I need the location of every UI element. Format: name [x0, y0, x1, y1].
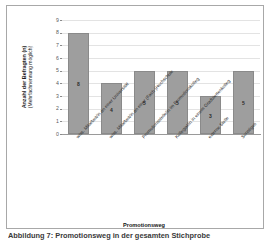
- y-tick-mark: [60, 83, 62, 84]
- y-tick-label: 8: [45, 30, 59, 35]
- y-tick-label: 1: [45, 119, 59, 124]
- y-axis-title: Anzahl der Befragten (n) (Mehrfachnennun…: [17, 20, 37, 134]
- y-tick-label: 4: [45, 81, 59, 86]
- y-tick-label: 9: [45, 18, 59, 23]
- y-tick-mark: [60, 58, 62, 59]
- y-tick-mark: [60, 33, 62, 34]
- y-axis-title-wrapper: Anzahl der Befragten (n) (Mehrfachnennun…: [17, 20, 37, 134]
- bar-value-label: 3: [201, 113, 220, 119]
- y-tick-mark: [60, 20, 62, 21]
- y-tick-mark: [60, 134, 62, 135]
- y-tick-label: 5: [45, 68, 59, 73]
- y-tick-mark: [60, 71, 62, 72]
- chart-frame: Anzahl der Befragten (n) (Mehrfachnennun…: [6, 5, 264, 229]
- bar-value-label: 8: [69, 81, 88, 87]
- y-tick-mark: [60, 109, 62, 110]
- figure-page: Anzahl der Befragten (n) (Mehrfachnennun…: [0, 0, 274, 240]
- bar: 8: [68, 33, 89, 134]
- x-axis-line: [62, 134, 261, 135]
- x-axis-title: Promotionsweg: [7, 222, 274, 228]
- y-tick-label: 7: [45, 43, 59, 48]
- y-tick-mark: [60, 45, 62, 46]
- y-tick-label: 0: [45, 132, 59, 137]
- y-tick-label: 2: [45, 106, 59, 111]
- y-tick-label: 3: [45, 94, 59, 99]
- y-axis-title-sub: (Mehrfachnennung möglich): [27, 46, 33, 108]
- figure-caption: Abbildung 7: Promotionsweg in der gesamt…: [8, 231, 270, 240]
- y-tick-label: 6: [45, 56, 59, 61]
- y-tick-mark: [60, 96, 62, 97]
- bar-value-label: 5: [234, 100, 253, 106]
- y-tick-mark: [60, 121, 62, 122]
